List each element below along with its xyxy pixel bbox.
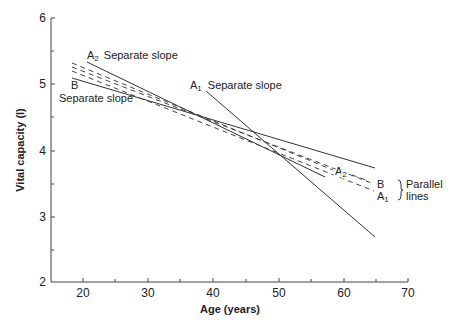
- x-tick-label: 40: [206, 286, 220, 300]
- label-b-right: B: [377, 178, 384, 190]
- label-a2-right: A2: [335, 165, 347, 179]
- y-tick-label: 4: [39, 144, 46, 158]
- line-a2-separate-slope: [87, 62, 325, 177]
- y-tick-label: 2: [39, 275, 46, 289]
- brace-icon: [398, 180, 403, 200]
- line-a2-parallel-tail: [352, 175, 366, 180]
- x-tick-label: 30: [141, 286, 155, 300]
- label-parallel: Parallel: [406, 178, 443, 190]
- y-tick-label: 3: [39, 210, 46, 224]
- x-tick-label: 50: [272, 286, 286, 300]
- y-tick-label: 6: [39, 11, 46, 25]
- x-tick-label: 60: [337, 286, 351, 300]
- label-a2-separate-slope: A2Separate slope: [87, 49, 178, 63]
- label-a1-separate-slope: A1Separate slope: [190, 79, 282, 93]
- x-axis-title: Age (years): [200, 303, 260, 315]
- x-tick-label: 70: [401, 286, 415, 300]
- label-b-left: B: [71, 79, 78, 91]
- vital-capacity-age-chart: 6 5 4 3 2 20 30 40 50 60 70 Age (years) …: [0, 0, 458, 324]
- y-axis-title: Vital capacity (l): [14, 108, 26, 192]
- line-a1-separate-slope: [206, 91, 375, 237]
- x-tick-label: 20: [76, 286, 90, 300]
- label-a1-right: A1: [377, 190, 389, 204]
- label-lines: lines: [406, 190, 429, 202]
- label-b-separate-slope: Separate slope: [59, 92, 133, 104]
- y-tick-label: 5: [39, 77, 46, 91]
